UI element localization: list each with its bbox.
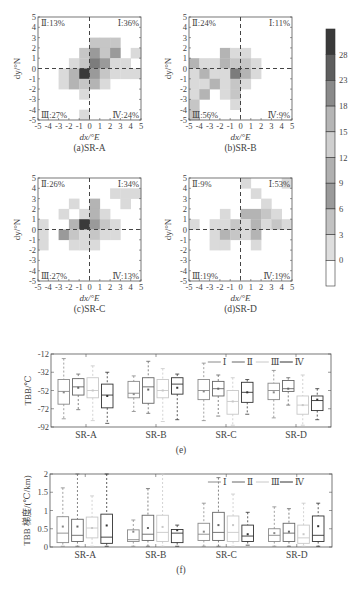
y-tick-label: -5 — [29, 115, 36, 125]
y-tick-label: 4 — [32, 183, 37, 193]
y-axis-label: dy/°N — [163, 57, 173, 79]
heatmap-cell — [189, 219, 200, 230]
heatmap-cell — [79, 209, 90, 220]
heatmap-panel-1: -55-44-33-22-11001-12-23-34-45-5Ⅱ:13%Ⅰ:3… — [12, 12, 143, 154]
y-tick-label: 2 — [44, 469, 48, 479]
heatmap-cell — [90, 48, 101, 59]
x-tick-label: -1 — [76, 121, 83, 131]
quadrant-I-label: Ⅰ:53% — [269, 179, 290, 189]
heatmap-cell — [110, 188, 121, 199]
box — [57, 517, 69, 543]
quadrant-III-label: Ⅲ:19% — [192, 271, 218, 281]
x-tick-label: -1 — [227, 121, 234, 131]
legend-label: Ⅲ — [271, 357, 280, 367]
colorbar-tick: 9 — [339, 178, 343, 188]
y-tick-label: -2 — [29, 84, 36, 94]
heatmap-cell — [110, 219, 121, 230]
heatmap-cell — [220, 79, 231, 90]
y-tick-label: 4 — [32, 22, 37, 32]
heatmap-cell — [230, 79, 241, 90]
y-tick-label: -92 — [38, 422, 49, 432]
x-tick-label: 5 — [139, 121, 143, 131]
x-axis-label: dx/°E — [79, 132, 100, 142]
heatmap-cell — [59, 69, 70, 80]
x-tick-label: -2 — [216, 282, 223, 292]
heatmap-cell — [69, 219, 80, 230]
heatmap-cell — [100, 69, 111, 80]
heatmap-cell — [241, 69, 252, 80]
x-tick-label: 3 — [269, 121, 273, 131]
y-tick-label: 3 — [183, 33, 187, 43]
heatmap-cell — [38, 230, 49, 241]
heatmap-cell — [100, 230, 111, 241]
heatmap-cell — [261, 209, 272, 220]
panel-caption: (a)SR-A — [73, 143, 105, 154]
heatmap-panel-3: -55-44-33-22-11001-12-23-34-45-5Ⅱ:26%Ⅰ:3… — [12, 173, 143, 315]
heatmap-cell — [69, 230, 80, 241]
panel-caption: (f) — [176, 565, 186, 576]
y-axis-label: TBB 梯度/(℃/km) — [21, 475, 32, 545]
x-tick-label: -1 — [227, 282, 234, 292]
heatmap-cell — [79, 69, 90, 80]
heatmap-cell — [210, 79, 221, 90]
y-tick-label: 2 — [32, 204, 36, 214]
heatmap-cell — [90, 199, 101, 210]
heatmap-cell — [251, 240, 262, 251]
heatmap-cell — [230, 58, 241, 69]
colorbar-tick: 15 — [339, 127, 348, 137]
heatmap-panel-2: -55-44-33-22-11001-12-23-34-45-5Ⅱ:24%Ⅰ:1… — [163, 12, 294, 154]
heatmap-cell — [241, 219, 252, 230]
heatmap-cell — [90, 240, 101, 251]
heatmap-cell — [189, 69, 200, 80]
quadrant-III-label: Ⅲ:27% — [41, 110, 67, 120]
heatmap-cell — [251, 219, 262, 230]
x-tick-label: 4 — [129, 121, 134, 131]
x-tick-label: -4 — [45, 282, 53, 292]
x-tick-label: 5 — [290, 121, 294, 131]
legend-label: Ⅰ — [223, 477, 227, 487]
y-tick-label: 1.5 — [37, 487, 48, 497]
y-tick-label: -1 — [29, 235, 36, 245]
x-tick-label: -3 — [55, 121, 62, 131]
y-axis-label: dy/°N — [163, 218, 173, 240]
heatmap-cell — [120, 199, 131, 210]
heatmap-panel-4: -55-44-33-22-11001-12-23-34-45-5Ⅱ:9%Ⅰ:53… — [163, 173, 294, 315]
box — [72, 519, 84, 541]
heatmap-cell — [59, 230, 70, 241]
heatmap-cell — [261, 199, 272, 210]
box — [283, 380, 295, 391]
x-tick-label: -3 — [55, 282, 62, 292]
y-tick-label: 2 — [183, 204, 187, 214]
figure: -55-44-33-22-11001-12-23-34-45-5Ⅱ:13%Ⅰ:3… — [0, 0, 351, 589]
heatmap-cell — [241, 58, 252, 69]
x-tick-label: 0 — [87, 282, 91, 292]
heatmap-cell — [220, 58, 231, 69]
heatmap-cell — [189, 79, 200, 90]
y-tick-label: -52 — [38, 386, 49, 396]
box — [128, 381, 140, 397]
heatmap-cell — [210, 219, 221, 230]
x-tick-label: -2 — [65, 282, 72, 292]
x-tick-label: 0 — [238, 282, 242, 292]
x-tick-label: 4 — [129, 282, 134, 292]
x-tick-label: -2 — [65, 121, 72, 131]
heatmap-cell — [251, 188, 262, 199]
heatmap-cell — [90, 38, 101, 49]
quadrant-II-label: Ⅱ:24% — [192, 18, 216, 28]
heatmap-cell — [241, 209, 252, 220]
y-tick-label: -2 — [29, 245, 36, 255]
box — [213, 512, 225, 540]
boxplot-f: 21.510.50SR-ASR-BSR-CSR-DⅠⅡⅢⅣTBB 梯度/(℃/k… — [21, 469, 332, 576]
colorbar-tick: 28 — [339, 50, 348, 60]
quadrant-III-label: Ⅲ:56% — [192, 110, 218, 120]
y-tick-label: 3 — [32, 194, 36, 204]
y-tick-label: -4 — [180, 266, 188, 276]
category-label: SR-C — [215, 430, 236, 440]
heatmap-cell — [100, 219, 111, 230]
heatmap-cell — [220, 89, 231, 100]
quadrant-I-label: Ⅰ:11% — [269, 18, 290, 28]
y-tick-label: -3 — [29, 94, 36, 104]
heatmap-cell — [220, 48, 231, 59]
box — [198, 380, 210, 400]
x-tick-label: -1 — [76, 282, 83, 292]
